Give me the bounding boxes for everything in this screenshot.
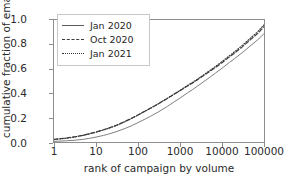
legend-label: Oct 2020 — [90, 34, 134, 46]
legend-label: Jan 2020 — [90, 20, 132, 32]
legend-swatch-dotted-icon — [62, 49, 84, 59]
y-tick-label: 0.8 — [3, 38, 27, 48]
y-tick-label: 0.4 — [3, 88, 27, 98]
x-axis-label: rank of campaign by volume — [53, 162, 265, 174]
legend-swatch-solid-icon — [62, 21, 84, 31]
legend-item[interactable]: Oct 2020 — [62, 33, 144, 47]
x-tick-mark — [96, 143, 97, 147]
x-tick-label: 10 — [89, 146, 102, 157]
x-tick-label: 1 — [51, 146, 58, 157]
x-tick-label: 100000 — [244, 146, 284, 157]
y-tick-label: 0.6 — [3, 63, 27, 73]
legend: Jan 2020 Oct 2020 Jan 2021 — [57, 14, 150, 66]
y-tick-label: 0.0 — [3, 138, 27, 148]
y-tick-mark — [49, 143, 53, 144]
x-tick-label: 1000 — [167, 146, 194, 157]
chart-figure: cumulative fraction of emails 0.00.20.40… — [0, 0, 294, 184]
legend-item[interactable]: Jan 2021 — [62, 47, 144, 61]
x-tick-mark — [222, 143, 223, 147]
x-tick-mark — [54, 143, 55, 147]
x-tick-label: 100 — [128, 146, 148, 157]
x-tick-label: 10000 — [205, 146, 238, 157]
x-tick-mark — [138, 143, 139, 147]
legend-swatch-dashed-icon — [62, 35, 84, 45]
legend-label: Jan 2021 — [90, 48, 132, 60]
x-tick-mark — [264, 143, 265, 147]
legend-item[interactable]: Jan 2020 — [62, 19, 144, 33]
x-tick-mark — [180, 143, 181, 147]
y-tick-label: 0.2 — [3, 113, 27, 123]
y-tick-label: 1.0 — [3, 14, 27, 24]
